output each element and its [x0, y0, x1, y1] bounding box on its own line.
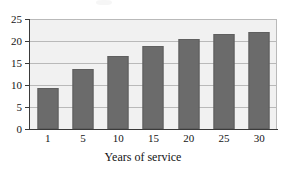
- x-axis-tick-label: 15: [148, 131, 159, 145]
- bar-slot: [206, 19, 241, 129]
- y-axis-tick-label: 5: [17, 102, 23, 113]
- bar-slot: [65, 19, 100, 129]
- x-axis-tick-label: 10: [113, 131, 124, 145]
- bar-slot: [242, 19, 277, 129]
- bar: [178, 39, 199, 129]
- bar-slot: [171, 19, 206, 129]
- y-axis-tick-mark: [25, 107, 30, 108]
- bar: [143, 46, 164, 129]
- bars-layer: [30, 19, 277, 129]
- y-axis-line: [29, 19, 30, 130]
- bar: [108, 56, 129, 129]
- x-axis-tick-label: 1: [45, 131, 51, 145]
- bar-chart-figure: 0510152025 151015202530 Years of service: [0, 0, 286, 174]
- y-axis-tick-mark: [25, 63, 30, 64]
- scan-artifact: [96, 0, 112, 5]
- x-axis-tick-label: 30: [254, 131, 265, 145]
- x-axis-tick-label: 25: [219, 131, 230, 145]
- y-axis-tick-mark: [25, 41, 30, 42]
- x-axis-tick-labels: 151015202530: [30, 131, 277, 147]
- bar: [249, 32, 270, 129]
- x-axis-tick-label: 5: [80, 131, 86, 145]
- bar: [72, 69, 93, 129]
- y-axis-tick-mark: [25, 85, 30, 86]
- bar-slot: [136, 19, 171, 129]
- x-axis-tick-label: 20: [183, 131, 194, 145]
- bar: [37, 88, 58, 129]
- y-axis-tick-label: 15: [11, 58, 22, 69]
- y-axis-tick-mark: [25, 129, 30, 130]
- y-axis-tick-label: 20: [11, 36, 22, 47]
- x-axis-line: [29, 129, 278, 130]
- y-axis-tick-label: 0: [17, 124, 23, 135]
- bar-slot: [101, 19, 136, 129]
- y-axis-tick-mark: [25, 19, 30, 20]
- bar-slot: [30, 19, 65, 129]
- y-axis-tick-label: 25: [11, 14, 22, 25]
- bar: [214, 34, 235, 129]
- x-axis-title: Years of service: [0, 150, 286, 164]
- y-axis-tick-label: 10: [11, 80, 22, 91]
